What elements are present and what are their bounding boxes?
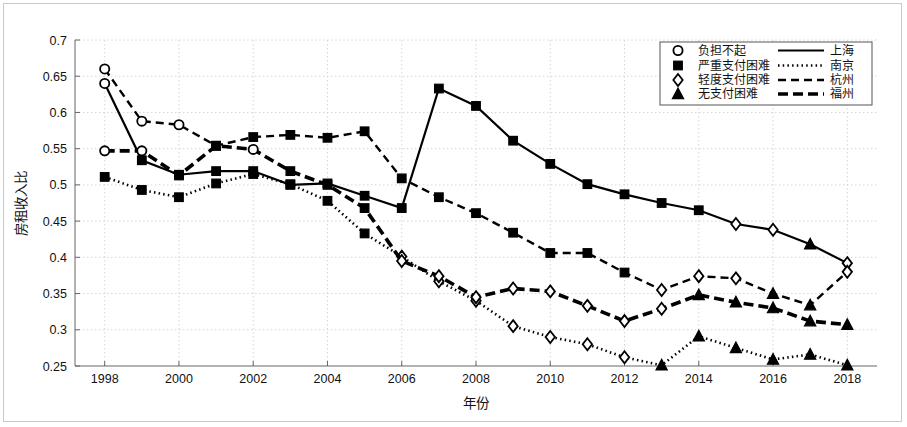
data-point-marker-square bbox=[286, 131, 295, 140]
x-tick-label: 1998 bbox=[91, 372, 119, 386]
data-point-marker-square bbox=[212, 141, 221, 150]
y-axis-ticks: 0.250.30.350.40.450.50.550.60.650.7 bbox=[43, 34, 80, 374]
data-point-marker-circle bbox=[137, 117, 146, 126]
data-point-marker-square bbox=[620, 268, 629, 277]
x-tick-label: 2014 bbox=[685, 372, 713, 386]
y-tick-label: 0.6 bbox=[50, 106, 67, 120]
data-point-marker-square bbox=[694, 206, 703, 215]
x-tick-label: 2008 bbox=[462, 372, 490, 386]
legend-marker-label: 负担不起 bbox=[698, 44, 746, 58]
data-point-marker-square bbox=[657, 199, 666, 208]
data-point-marker-square bbox=[509, 136, 518, 145]
data-point-marker-square bbox=[323, 181, 332, 190]
data-point-marker-circle bbox=[174, 120, 183, 129]
data-point-marker-square bbox=[546, 160, 555, 169]
data-point-marker-square bbox=[583, 249, 592, 258]
x-tick-label: 2006 bbox=[388, 372, 416, 386]
y-tick-label: 0.35 bbox=[43, 287, 67, 301]
data-point-marker-circle bbox=[137, 146, 146, 155]
data-point-marker-square bbox=[435, 193, 444, 202]
data-point-marker-circle bbox=[100, 146, 109, 155]
y-tick-label: 0.55 bbox=[43, 142, 67, 156]
y-tick-label: 0.3 bbox=[50, 323, 67, 337]
data-point-marker-square bbox=[249, 170, 258, 179]
data-point-marker-square bbox=[472, 102, 481, 111]
data-point-marker-square bbox=[175, 171, 184, 180]
data-point-marker-square bbox=[175, 193, 184, 202]
x-tick-label: 2012 bbox=[611, 372, 639, 386]
data-point-marker-square bbox=[583, 180, 592, 189]
y-tick-label: 0.25 bbox=[43, 360, 67, 374]
data-point-marker-square bbox=[323, 197, 332, 206]
x-tick-label: 2004 bbox=[314, 372, 342, 386]
data-point-marker-square bbox=[249, 133, 258, 142]
data-point-marker-square bbox=[397, 174, 406, 183]
legend-line-label: 杭州 bbox=[830, 72, 854, 87]
rent-to-income-ratio-line-chart: 0.250.30.350.40.450.50.550.60.650.719982… bbox=[0, 0, 907, 427]
data-point-marker-circle bbox=[100, 79, 109, 88]
x-tick-label: 2018 bbox=[833, 372, 861, 386]
y-tick-label: 0.4 bbox=[50, 251, 67, 265]
data-point-marker-square bbox=[212, 167, 221, 176]
data-point-marker-square bbox=[360, 127, 369, 136]
y-tick-label: 0.5 bbox=[50, 178, 67, 192]
data-point-marker-square bbox=[435, 84, 444, 93]
data-point-marker-square bbox=[360, 204, 369, 213]
legend-marker-label: 无支付困难 bbox=[698, 87, 758, 101]
y-tick-label: 0.7 bbox=[50, 34, 67, 48]
x-tick-label: 2016 bbox=[759, 372, 787, 386]
data-point-marker-square bbox=[100, 173, 109, 182]
data-point-marker-square bbox=[397, 204, 406, 213]
data-point-marker-square bbox=[360, 191, 369, 200]
x-axis-title: 年份 bbox=[463, 395, 490, 411]
legend[interactable]: 负担不起严重支付困难轻度支付困难无支付困难上海南京杭州福州 bbox=[660, 42, 872, 105]
x-tick-label: 2000 bbox=[165, 372, 193, 386]
legend-line-label: 福州 bbox=[830, 86, 854, 101]
data-point-marker-square bbox=[286, 180, 295, 189]
y-tick-label: 0.65 bbox=[43, 70, 67, 84]
legend-marker-label: 严重支付困难 bbox=[698, 59, 770, 73]
data-point-marker-square bbox=[138, 186, 147, 195]
data-point-marker-circle bbox=[249, 145, 258, 154]
data-point-marker-square bbox=[674, 61, 683, 70]
data-point-marker-square bbox=[620, 190, 629, 199]
x-tick-label: 2002 bbox=[239, 372, 267, 386]
legend-marker-label: 轻度支付困难 bbox=[698, 72, 770, 87]
y-tick-label: 0.45 bbox=[43, 215, 67, 229]
x-tick-label: 2010 bbox=[536, 372, 564, 386]
data-point-marker-square bbox=[138, 156, 147, 165]
data-point-marker-square bbox=[360, 229, 369, 238]
y-axis-title: 房租收入比 bbox=[13, 171, 29, 236]
data-point-marker-square bbox=[472, 209, 481, 218]
data-point-marker-square bbox=[212, 179, 221, 188]
data-point-marker-square bbox=[286, 167, 295, 176]
data-point-marker-circle bbox=[100, 64, 109, 73]
data-point-marker-square bbox=[509, 228, 518, 237]
data-point-marker-square bbox=[323, 134, 332, 143]
chart-root: 0.250.30.350.40.450.50.550.60.650.719982… bbox=[0, 0, 907, 427]
legend-line-label: 上海 bbox=[830, 43, 854, 58]
data-point-marker-circle bbox=[673, 46, 682, 55]
data-point-marker-square bbox=[546, 249, 555, 258]
legend-line-label: 南京 bbox=[830, 58, 854, 73]
